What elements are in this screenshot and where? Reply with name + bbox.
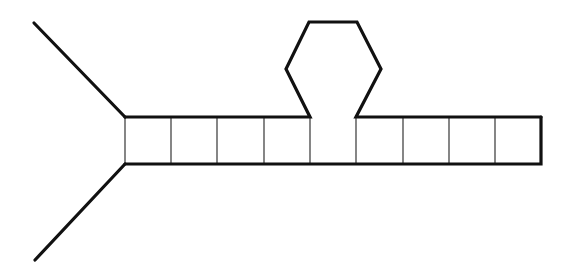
fork-arm-upper bbox=[34, 23, 125, 117]
ladder-rungs bbox=[125, 117, 495, 164]
ladder-diagram bbox=[0, 0, 571, 272]
fork-arms bbox=[34, 23, 125, 260]
ladder-top-rail-with-loop bbox=[125, 22, 541, 117]
fork-arm-lower bbox=[35, 164, 125, 260]
ladder-rails bbox=[125, 22, 541, 164]
ladder-bottom-rail-and-end bbox=[125, 117, 541, 164]
